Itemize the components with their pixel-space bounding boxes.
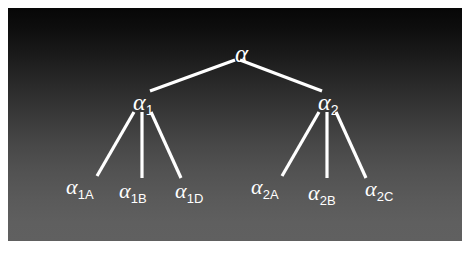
tree-node-subscript: 1B [131,191,147,206]
tree-edge-root-to-a2 [240,60,322,91]
tree-node-subscript: 2B [320,193,336,208]
tree-node-base-symbol: α [318,89,331,115]
tree-node-base-symbol: α [119,178,131,203]
tree-node-a2C: α2C [365,178,393,200]
tree-node-subscript: 2A [263,187,279,202]
tree-node-base-symbol: α [133,89,146,115]
tree-node-a2B: α2B [308,182,336,204]
tree-node-subscript: 2 [331,102,339,118]
tree-node-subscript: 1 [146,102,154,118]
tree-edge-a1-to-a1D [151,112,181,178]
tree-node-a1A: α1A [66,176,94,198]
tree-edge-a2-to-a2C [336,112,366,178]
tree-edge-root-to-a1 [150,60,235,91]
tree-node-base-symbol: α [251,174,263,199]
diagram-canvas: αα1α2α1Aα1Bα1Dα2Aα2Bα2C [0,0,470,257]
diagram-panel: αα1α2α1Aα1Bα1Dα2Aα2Bα2C [8,8,462,241]
tree-node-a2: α2 [318,90,339,114]
tree-node-a2A: α2A [251,176,279,198]
tree-node-subscript: 2C [377,189,394,204]
tree-node-a1D: α1D [175,180,203,202]
tree-edge-a2-to-a2A [282,112,319,176]
tree-node-a1B: α1B [119,180,147,202]
tree-node-base-symbol: α [365,176,377,201]
tree-node-a1: α1 [133,90,154,114]
tree-node-base-symbol: α [66,174,78,199]
tree-node-base-symbol: α [175,178,187,203]
tree-node-subscript: 1D [187,191,204,206]
tree-node-base-symbol: α [308,180,320,205]
tree-node-root: α [235,41,248,66]
tree-node-subscript: 1A [78,187,94,202]
tree-node-base-symbol: α [235,40,248,67]
tree-edge-a1-to-a1A [97,112,134,176]
